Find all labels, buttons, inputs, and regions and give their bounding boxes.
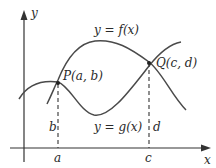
curve-f-label: y = f(x) bbox=[93, 23, 139, 37]
point-q-label: Q(c, d) bbox=[156, 56, 198, 70]
segment-b-label: b bbox=[49, 120, 57, 134]
point-q-marker bbox=[147, 61, 151, 65]
tick-label-a: a bbox=[54, 151, 61, 165]
x-axis-label: x bbox=[204, 153, 211, 167]
diagram-canvas: y x y = f(x) y = g(x) P(a, b) Q(c, d) b … bbox=[0, 0, 216, 168]
point-p-marker bbox=[56, 81, 60, 85]
segment-d-label: d bbox=[153, 120, 161, 134]
x-axis-arrow-icon bbox=[201, 145, 211, 152]
tick-label-c: c bbox=[145, 151, 152, 165]
point-p-label: P(a, b) bbox=[62, 69, 103, 83]
y-axis-label: y bbox=[30, 6, 38, 20]
curve-g-label: y = g(x) bbox=[93, 120, 143, 134]
y-axis-arrow-icon bbox=[21, 10, 28, 20]
